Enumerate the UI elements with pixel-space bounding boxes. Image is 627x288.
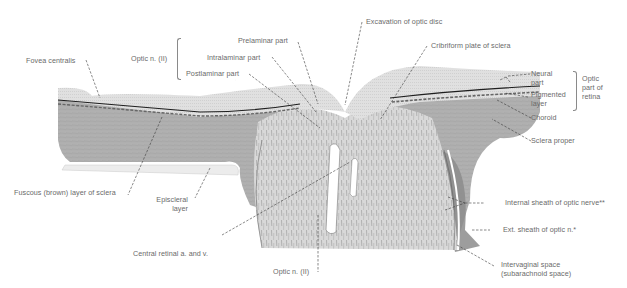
label-fuscous-layer: Fuscous (brown) layer of sclera bbox=[14, 189, 116, 198]
label-postlaminar-part: Postlaminar part bbox=[186, 70, 239, 79]
optic-nerve-body bbox=[254, 106, 459, 250]
label-optic-part-retina-line3: retina bbox=[582, 93, 600, 102]
label-choroid: Choroid bbox=[531, 114, 557, 123]
label-intervaginal-line2: (subarachnoid space) bbox=[501, 270, 571, 279]
label-central-retinal-vessels: Central retinal a. and v. bbox=[133, 250, 208, 259]
label-internal-sheath: Internal sheath of optic nerve** bbox=[505, 199, 605, 208]
label-prelaminar-part: Prelaminar part bbox=[238, 37, 288, 46]
optic-retina-brace bbox=[573, 71, 577, 111]
label-episcleral-line2: layer bbox=[150, 205, 188, 214]
label-intralaminar-part: Intralaminar part bbox=[207, 54, 260, 63]
label-neural-part-line2: part bbox=[531, 79, 544, 88]
label-sclera-proper: Sclera proper bbox=[531, 137, 575, 146]
optic-nerve-group-brace bbox=[177, 38, 181, 80]
label-optic-nerve-group: Optic n. (II) bbox=[131, 55, 167, 64]
label-fovea-centralis: Fovea centralis bbox=[26, 57, 76, 66]
label-cribriform-plate: Cribriform plate of sclera bbox=[431, 42, 511, 51]
label-pigmented-layer-line2: layer bbox=[531, 100, 547, 109]
label-external-sheath: Ext. sheath of optic n.* bbox=[503, 226, 576, 235]
label-optic-nerve-bottom: Optic n. (II) bbox=[273, 268, 309, 277]
label-excavation-optic-disc: Excavation of optic disc bbox=[366, 18, 442, 27]
